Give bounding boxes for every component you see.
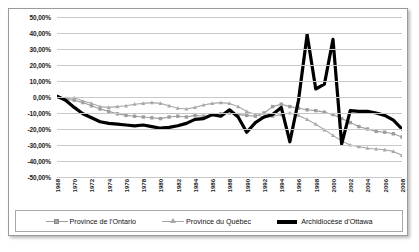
x-axis-tick-label: 1980	[157, 179, 164, 192]
series-marker	[124, 114, 127, 117]
x-axis-tick-label: 2000	[330, 179, 337, 192]
gridline	[57, 65, 402, 66]
x-axis-tick-label: 1976	[123, 179, 130, 192]
x-axis-tick-label: 1994	[278, 179, 285, 192]
x-axis-tick-label: 1998	[313, 179, 320, 192]
legend-label: Province de l'Ontario	[70, 217, 137, 226]
legend-item[interactable]: Province de l'Ontario	[46, 217, 137, 226]
y-axis-tick-label: -10,00%	[27, 110, 51, 117]
legend-key-icon	[162, 217, 184, 226]
x-axis-tick-label: 1992	[261, 179, 268, 192]
series-2	[57, 35, 402, 145]
series-marker	[392, 132, 395, 135]
series-marker	[150, 116, 153, 119]
series-1	[57, 95, 402, 157]
series-marker	[193, 114, 196, 117]
gridline	[57, 33, 402, 34]
y-axis-tick-label: 0,00%	[33, 94, 51, 101]
legend-label: Archidiocèse d'Ottawa	[301, 217, 372, 226]
series-marker	[400, 135, 402, 138]
gridline	[57, 17, 402, 18]
legend-label: Province du Québec	[186, 217, 251, 226]
x-axis-tick-label: 1972	[88, 179, 95, 192]
series-marker	[176, 115, 179, 118]
series-line	[57, 35, 402, 145]
series-marker	[133, 115, 136, 118]
chart-plot-wrapper: 50,00%40,00%30,00%20,00%10,00%0,00%-10,0…	[9, 9, 409, 237]
series-marker	[288, 105, 291, 108]
x-axis-tick-label: 1982	[175, 179, 182, 192]
plot-area	[57, 17, 402, 177]
x-axis-tick-label: 1990	[244, 179, 251, 192]
series-marker	[357, 125, 360, 128]
series-marker	[271, 105, 274, 108]
series-marker	[383, 131, 386, 134]
x-axis-tick-label: 2008	[399, 179, 406, 192]
y-axis-tick-label: -20,00%	[27, 126, 51, 133]
gridline	[57, 113, 402, 114]
gridline	[57, 161, 402, 162]
y-axis-tick-label: -40,00%	[27, 158, 51, 165]
y-axis-tick-label: 20,00%	[30, 62, 51, 69]
chart-frame: 50,00%40,00%30,00%20,00%10,00%0,00%-10,0…	[8, 8, 408, 236]
x-axis-tick-label: 1986	[209, 179, 216, 192]
legend-key-icon	[277, 217, 299, 226]
y-axis-tick-label: 30,00%	[30, 46, 51, 53]
x-axis-tick-label: 2006	[382, 179, 389, 192]
gridline	[57, 177, 402, 178]
y-axis-tick-label: 50,00%	[30, 14, 51, 21]
y-axis-tick-label: 40,00%	[30, 30, 51, 37]
series-marker	[167, 115, 170, 118]
x-axis-tick-label: 2002	[347, 179, 354, 192]
x-axis-tick-label: 1968	[54, 179, 61, 192]
x-axis-tick-label: 1984	[192, 179, 199, 192]
x-axis-tick-label: 1974	[106, 179, 113, 192]
x-axis-tick-label: 1996	[295, 179, 302, 192]
y-axis-tick-label: -50,00%	[27, 174, 51, 181]
y-axis-labels: 50,00%40,00%30,00%20,00%10,00%0,00%-10,0…	[9, 17, 55, 177]
legend-item[interactable]: Province du Québec	[162, 217, 251, 226]
y-axis-tick-label: 10,00%	[30, 78, 51, 85]
series-marker	[142, 115, 145, 118]
series-marker	[374, 130, 377, 133]
legend-item[interactable]: Archidiocèse d'Ottawa	[277, 217, 372, 226]
gridline	[57, 81, 402, 82]
series-marker	[280, 103, 283, 106]
x-axis-tick-label: 2004	[364, 179, 371, 192]
gridline	[57, 49, 402, 50]
series-marker	[159, 117, 162, 120]
chart-legend: Province de l'OntarioProvince du QuébecA…	[15, 210, 403, 232]
x-axis-tick-label: 1970	[71, 179, 78, 192]
x-axis-tick-label: 1988	[226, 179, 233, 192]
gridline	[57, 145, 402, 146]
series-marker	[245, 114, 248, 117]
x-axis-tick-label: 1978	[140, 179, 147, 192]
series-marker	[305, 108, 308, 111]
series-marker	[185, 115, 188, 118]
series-marker	[314, 109, 317, 112]
y-axis-tick-label: -30,00%	[27, 142, 51, 149]
gridline	[57, 97, 402, 98]
gridline	[57, 129, 402, 130]
legend-key-icon	[46, 217, 68, 226]
